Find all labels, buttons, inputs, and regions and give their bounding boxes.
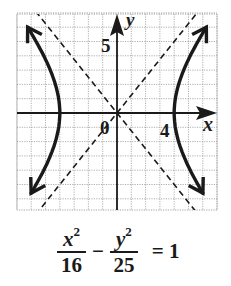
minus-sign: − (92, 239, 104, 264)
hyperbola-left-branch (28, 27, 60, 193)
fraction-y: y2 25 (110, 227, 138, 276)
fraction-x: x2 16 (57, 227, 86, 276)
exponent-x: 2 (74, 224, 81, 239)
denominator-16: 16 (61, 253, 82, 276)
exponent-y: 2 (125, 224, 132, 239)
denominator-25: 25 (113, 253, 134, 276)
numerator-y: y (116, 227, 125, 251)
numerator-x: x (63, 227, 74, 251)
y-axis-label: y (126, 10, 134, 29)
hyperbola-equation: x2 16 − y2 25 = 1 (57, 228, 180, 274)
x-axis-label: x (203, 114, 213, 134)
origin-label: 0 (100, 118, 110, 137)
hyperbola-graph (0, 0, 231, 225)
x-tick-label-4: 4 (160, 121, 170, 140)
y-tick-label-5: 5 (101, 36, 111, 55)
equals-one: = 1 (152, 239, 180, 264)
